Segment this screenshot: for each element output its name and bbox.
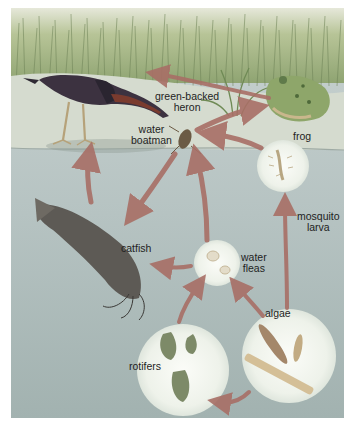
arrow-algae-to-larva: [285, 204, 287, 308]
food-web-diagram: green-backed heron frog water boatman mo…: [11, 8, 344, 418]
label-mosquito-larva: mosquito larva: [297, 211, 340, 233]
algae-circle: [242, 309, 336, 403]
water-fleas-circle: [194, 240, 240, 286]
arrow-fleas-to-catfish: [161, 266, 191, 268]
label-frog: frog: [293, 131, 311, 142]
label-rotifers: rotifers: [129, 361, 161, 372]
label-catfish: catfish: [121, 243, 151, 254]
mosquito-larva-circle: [257, 140, 309, 192]
label-heron: green-backed heron: [155, 91, 219, 113]
label-water-fleas: water fleas: [241, 252, 267, 274]
label-water-boatman: water boatman: [131, 124, 172, 146]
food-web-illustration: [11, 8, 344, 418]
label-algae: algae: [265, 308, 291, 319]
